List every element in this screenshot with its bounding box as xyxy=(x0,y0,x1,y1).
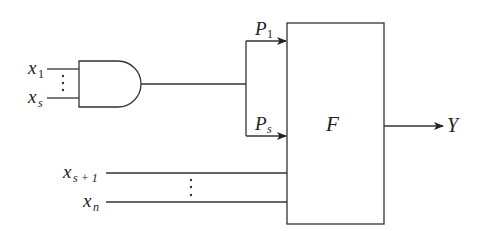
svg-text:1: 1 xyxy=(267,27,273,41)
svg-text:x: x xyxy=(82,190,92,211)
svg-text:1: 1 xyxy=(38,67,44,81)
svg-text:P: P xyxy=(254,18,267,39)
label-p1: P 1 xyxy=(254,18,273,41)
svg-text:x: x xyxy=(62,161,72,182)
input-x1-label: x 1 xyxy=(27,57,44,81)
svg-text:s: s xyxy=(38,96,43,110)
block-label-f: F xyxy=(325,112,339,136)
input-xs1-label: x s + 1 xyxy=(62,161,98,185)
svg-text:s: s xyxy=(267,122,272,136)
label-ps: P s xyxy=(254,113,272,136)
svg-text:x: x xyxy=(27,57,37,78)
ellipsis-direct-inputs xyxy=(190,179,192,196)
input-xs-label: x s xyxy=(27,86,43,110)
svg-text:x: x xyxy=(27,86,37,107)
input-xn-label: x n xyxy=(82,190,99,214)
svg-text:s + 1: s + 1 xyxy=(73,171,98,185)
output-label-y: Y xyxy=(447,114,460,136)
ellipsis-gate-inputs xyxy=(62,75,64,91)
circuit-diagram: x 1 x s P 1 P s F Y x s + 1 x n xyxy=(0,0,486,231)
svg-text:n: n xyxy=(93,200,99,214)
svg-text:P: P xyxy=(254,113,267,134)
and-gate xyxy=(79,61,141,107)
